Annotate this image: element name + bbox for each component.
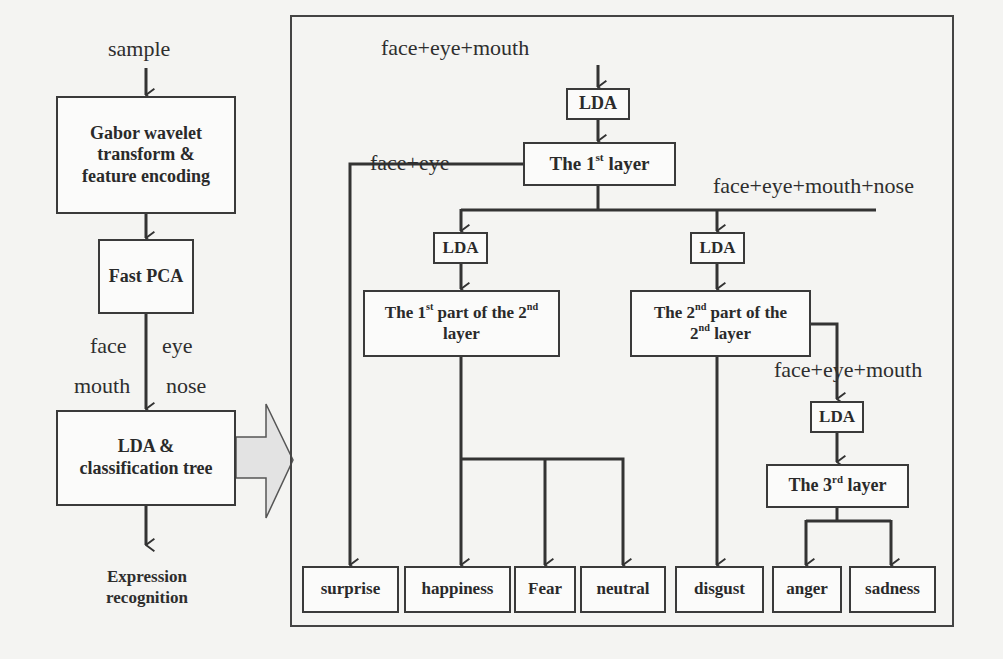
- gabor-box: Gabor wavelet transform & feature encodi…: [56, 96, 236, 214]
- layer3-label: The 3rd layer: [789, 475, 887, 497]
- gabor-line-2: transform &: [97, 144, 194, 166]
- output-surprise: surprise: [302, 566, 399, 613]
- output-line-1: Expression: [92, 566, 202, 587]
- lda-layer3-label: LDA: [819, 407, 855, 427]
- region-eye-label: eye: [162, 333, 193, 359]
- layer2-part2-box: The 2nd part of the 2nd layer: [630, 290, 811, 357]
- expression-recognition-label: Expression recognition: [92, 566, 202, 609]
- output-fear: Fear: [514, 566, 576, 613]
- layer3-box: The 3rd layer: [766, 464, 909, 508]
- layer1-label: The 1st layer: [549, 153, 649, 176]
- branch-left-features-label: face+eye: [370, 150, 450, 176]
- layer2-part1-line-1: The 1st part of the 2nd: [385, 303, 538, 323]
- layer2-part1-box: The 1st part of the 2nd layer: [363, 290, 560, 357]
- output-line-2: recognition: [92, 587, 202, 608]
- layer2-part2-line-1: The 2nd part of the: [654, 303, 787, 323]
- layer2-part1-line-2: layer: [443, 324, 480, 344]
- layer2-part2-line-2: 2nd layer: [690, 324, 751, 344]
- branch-right-features-label: face+eye+mouth+nose: [713, 173, 914, 199]
- lda-box-layer3: LDA: [810, 401, 864, 433]
- lda-tree-line-2: classification tree: [79, 458, 212, 480]
- lda-tree-line-1: LDA &: [118, 436, 175, 458]
- lda-root-label: LDA: [579, 93, 617, 115]
- fast-pca-label: Fast PCA: [109, 266, 184, 288]
- fast-pca-box: Fast PCA: [98, 239, 194, 314]
- gabor-line-1: Gabor wavelet: [90, 123, 202, 145]
- expression-recognition-diagram: sample Gabor wavelet transform & feature…: [0, 0, 1003, 659]
- lda-left-label: LDA: [443, 238, 479, 258]
- layer3-features-label: face+eye+mouth: [774, 357, 922, 383]
- sample-label: sample: [108, 36, 170, 62]
- lda-classification-tree-box: LDA & classification tree: [56, 410, 236, 506]
- output-anger: anger: [772, 566, 842, 613]
- root-features-label: face+eye+mouth: [381, 35, 529, 61]
- output-happiness: happiness: [404, 566, 511, 613]
- lda-box-left: LDA: [433, 232, 488, 264]
- gabor-line-3: feature encoding: [82, 166, 210, 188]
- region-face-label: face: [90, 333, 127, 359]
- big-arrow-icon: [236, 404, 293, 518]
- lda-box-right: LDA: [690, 232, 745, 264]
- region-nose-label: nose: [166, 373, 206, 399]
- lda-box-root: LDA: [566, 88, 630, 120]
- output-sadness: sadness: [849, 566, 936, 613]
- layer1-box: The 1st layer: [523, 142, 676, 186]
- output-disgust: disgust: [675, 566, 764, 613]
- lda-right-label: LDA: [700, 238, 736, 258]
- output-neutral: neutral: [580, 566, 666, 613]
- region-mouth-label: mouth: [74, 373, 130, 399]
